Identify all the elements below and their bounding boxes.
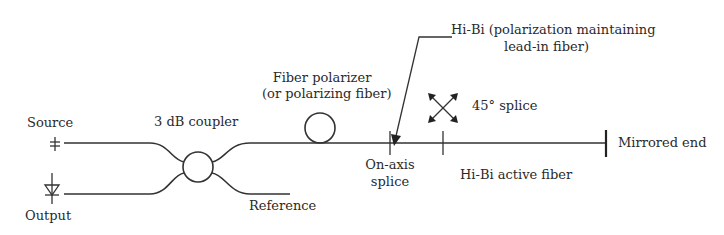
- fiber-sensor-diagram: Source Output 3 dB coupler Reference Fib…: [0, 0, 724, 235]
- output-label: Output: [25, 208, 71, 224]
- photodiode-icon: [45, 173, 59, 204]
- reference-fiber: [212, 173, 290, 194]
- source-symbol-icon: [50, 137, 60, 151]
- on-axis-label-line2: splice: [364, 174, 416, 190]
- coupler-circle-icon: [183, 152, 213, 182]
- reference-label: Reference: [249, 198, 316, 214]
- leader-arrow: [391, 37, 452, 146]
- polarizer-label-line1: Fiber polarizer: [267, 70, 377, 86]
- fiber-loop-icon: [305, 113, 335, 143]
- hibi-lead-label-line1: Hi-Bi (polarization maintaining: [451, 22, 656, 38]
- mirrored-end-label: Mirrored end: [618, 135, 706, 151]
- coupler-label: 3 dB coupler: [154, 114, 238, 130]
- polarizer-label-line2: (or polarizing fiber): [262, 86, 382, 102]
- source-label: Source: [27, 115, 73, 131]
- on-axis-label-line1: On-axis: [364, 157, 416, 173]
- 45-splice-label: 45° splice: [472, 98, 537, 114]
- output-fiber: [64, 173, 184, 194]
- active-fiber-label: Hi-Bi active fiber: [460, 167, 572, 183]
- hibi-lead-label-line2: lead-in fiber): [504, 39, 589, 55]
- cross-arrows-icon: [428, 93, 458, 123]
- source-fiber: [64, 143, 184, 162]
